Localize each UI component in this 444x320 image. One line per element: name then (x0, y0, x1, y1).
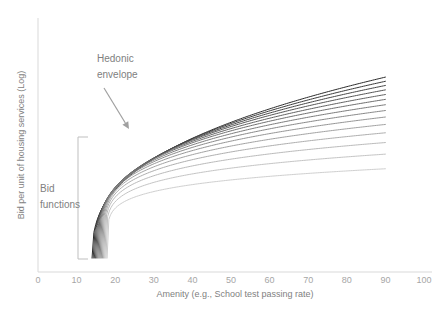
x-axis-tick-40: 40 (187, 275, 197, 285)
hedonic-envelope-label-line2: envelope (97, 69, 138, 80)
hedonic-envelope-arrow (104, 88, 129, 129)
curve-bid-function-11 (104, 133, 386, 258)
x-axis-tick-100: 100 (416, 275, 431, 285)
x-axis-title: Amenity (e.g., School test passing rate) (156, 289, 313, 299)
x-axis-tick-90: 90 (380, 275, 390, 285)
chart-canvas: 0102030405060708090100 Amenity (e.g., Sc… (0, 0, 444, 320)
bid-function-curves (92, 77, 385, 258)
hedonic-envelope-label-line1: Hedonic (97, 53, 134, 64)
x-axis-tick-70: 70 (303, 275, 313, 285)
curve-bid-function-9 (101, 117, 385, 258)
bid-functions-label-line2: functions (40, 199, 80, 210)
chart-figure: 0102030405060708090100 Amenity (e.g., Sc… (0, 0, 444, 320)
curve-bid-function-10 (102, 124, 385, 258)
curve-bid-function-14 (107, 169, 385, 258)
x-axis-tick-10: 10 (72, 275, 82, 285)
x-axis-tick-labels: 0102030405060708090100 (35, 275, 431, 285)
curve-bid-function-8 (100, 111, 385, 259)
y-axis-title: Bid per unit of housing services (Log) (16, 71, 26, 220)
curve-bid-function-12 (105, 143, 386, 259)
x-axis-tick-0: 0 (35, 275, 40, 285)
bid-functions-bracket (78, 137, 88, 259)
x-axis-tick-20: 20 (110, 275, 120, 285)
x-axis-tick-60: 60 (265, 275, 275, 285)
x-axis-tick-80: 80 (342, 275, 352, 285)
x-axis-tick-50: 50 (226, 275, 236, 285)
x-axis-tick-30: 30 (149, 275, 159, 285)
bid-functions-label-line1: Bid (40, 183, 54, 194)
